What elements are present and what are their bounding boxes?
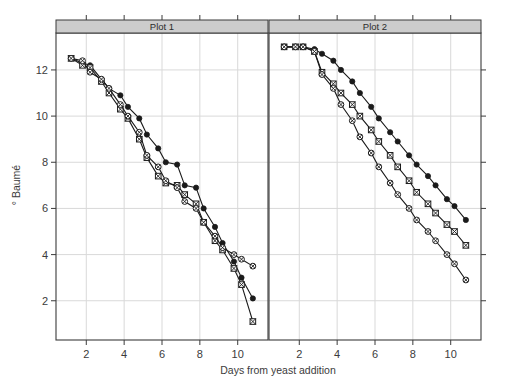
x-axis-title: Days from yeast addition (220, 364, 336, 376)
y-tick-label: 12 (36, 64, 48, 76)
x-tick-label: 4 (334, 348, 340, 360)
marker-filled-circle (201, 206, 206, 211)
x-tick-label: 6 (372, 348, 378, 360)
x-tick-label: 8 (410, 348, 416, 360)
marker-filled-circle (118, 93, 123, 98)
marker-filled-circle (414, 162, 419, 167)
strip-label-1: Plot 1 (150, 21, 174, 32)
trellis-chart-figure: Plot 1Plot 2 24681012246810246810 ° Baum… (0, 0, 507, 392)
marker-filled-circle (350, 79, 355, 84)
marker-filled-circle (193, 185, 198, 190)
marker-filled-circle (433, 183, 438, 188)
x-tick-label: 2 (83, 348, 89, 360)
marker-filled-circle (137, 116, 142, 121)
marker-filled-circle (250, 296, 255, 301)
y-tick-label: 6 (42, 202, 48, 214)
marker-filled-circle (331, 58, 336, 63)
marker-filled-circle (144, 132, 149, 137)
marker-filled-circle (406, 153, 411, 158)
marker-filled-circle (452, 204, 457, 209)
marker-filled-circle (319, 51, 324, 56)
y-tick-label: 10 (36, 110, 48, 122)
marker-filled-circle (395, 139, 400, 144)
marker-filled-circle (182, 183, 187, 188)
strip-label-2: Plot 2 (363, 21, 387, 32)
marker-filled-circle (376, 116, 381, 121)
marker-filled-circle (388, 130, 393, 135)
marker-filled-circle (338, 67, 343, 72)
marker-filled-circle (357, 90, 362, 95)
y-tick-label: 4 (42, 249, 48, 261)
marker-filled-circle (425, 174, 430, 179)
chart-canvas: Plot 1Plot 2 24681012246810246810 ° Baum… (0, 0, 507, 392)
marker-filled-circle (444, 197, 449, 202)
marker-filled-circle (163, 160, 168, 165)
marker-filled-circle (369, 104, 374, 109)
marker-filled-circle (463, 217, 468, 222)
marker-filled-circle (175, 162, 180, 167)
x-tick-label: 10 (445, 348, 457, 360)
marker-filled-circle (156, 146, 161, 151)
marker-filled-circle (212, 224, 217, 229)
x-tick-label: 6 (159, 348, 165, 360)
y-axis-title: ° Baumé (10, 165, 22, 206)
x-tick-label: 8 (197, 348, 203, 360)
marker-filled-circle (231, 259, 236, 264)
x-tick-label: 2 (296, 348, 302, 360)
y-tick-label: 2 (42, 295, 48, 307)
chart-background (0, 0, 507, 392)
y-tick-label: 8 (42, 156, 48, 168)
x-tick-label: 4 (121, 348, 127, 360)
marker-filled-circle (125, 104, 130, 109)
x-tick-label: 10 (232, 348, 244, 360)
